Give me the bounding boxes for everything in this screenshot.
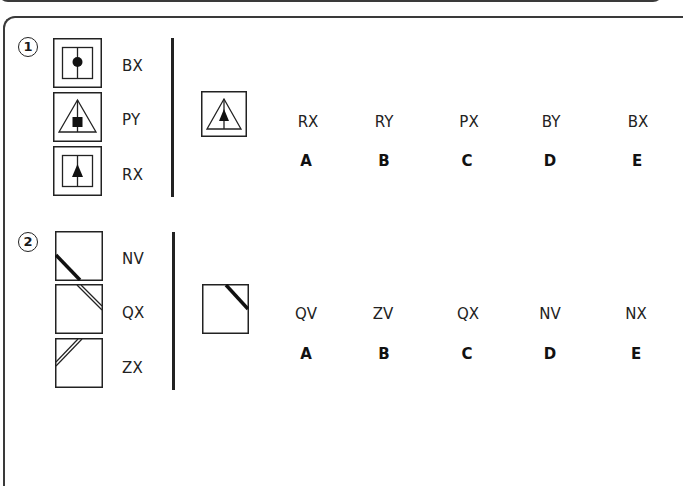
option-code-d: BY bbox=[542, 113, 561, 131]
example-code: BX bbox=[122, 57, 143, 75]
option-letter-a[interactable]: A bbox=[300, 152, 312, 170]
example-code: NV bbox=[122, 250, 144, 268]
option-code-b: ZV bbox=[373, 305, 394, 323]
divider-line bbox=[172, 232, 175, 390]
example-figure-double-diagonal-left bbox=[55, 338, 103, 388]
target-figure-1 bbox=[201, 91, 247, 137]
example-figure-thick-diagonal bbox=[55, 231, 103, 281]
option-letter-d[interactable]: D bbox=[544, 152, 556, 170]
question-number-2: 2 bbox=[18, 232, 38, 252]
top-frame-edge bbox=[0, 0, 663, 2]
example-code: ZX bbox=[122, 359, 143, 377]
example-code: PY bbox=[122, 111, 140, 129]
option-letter-b[interactable]: B bbox=[378, 345, 389, 363]
option-code-a: RX bbox=[298, 113, 319, 131]
option-code-d: NV bbox=[539, 305, 560, 323]
option-code-c: QX bbox=[457, 305, 479, 323]
option-letter-d[interactable]: D bbox=[544, 345, 556, 363]
option-code-a: QV bbox=[295, 305, 317, 323]
divider-line bbox=[171, 38, 174, 197]
option-letter-e[interactable]: E bbox=[632, 152, 642, 170]
option-code-b: RY bbox=[375, 113, 394, 131]
option-letter-a[interactable]: A bbox=[300, 345, 312, 363]
option-letter-c[interactable]: C bbox=[461, 345, 472, 363]
example-figure-square-triangle bbox=[53, 146, 102, 196]
question-panel bbox=[3, 16, 683, 486]
option-code-e: BX bbox=[628, 113, 649, 131]
option-letter-c[interactable]: C bbox=[461, 152, 472, 170]
example-figure-triangle-square bbox=[53, 92, 102, 142]
example-figure-circle bbox=[53, 38, 102, 88]
example-code: QX bbox=[122, 304, 145, 322]
option-letter-b[interactable]: B bbox=[378, 152, 389, 170]
example-figure-double-diagonal-right bbox=[55, 284, 103, 334]
example-code: RX bbox=[122, 166, 143, 184]
option-letter-e[interactable]: E bbox=[631, 345, 641, 363]
option-code-c: PX bbox=[459, 113, 478, 131]
target-figure-2 bbox=[202, 284, 249, 334]
question-number-1: 1 bbox=[18, 37, 38, 57]
option-code-e: NX bbox=[625, 305, 647, 323]
